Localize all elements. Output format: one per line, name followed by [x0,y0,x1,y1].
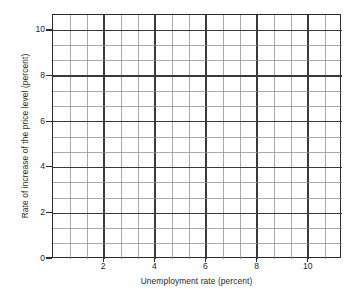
y-tick-label: 8 [5,71,45,80]
y-tick-label: 10 [5,25,45,34]
x-axis-tick-labels: 246810 [52,262,341,274]
y-axis-tick-labels: 0246810 [0,14,45,258]
x-tick-label: 2 [88,262,118,271]
y-tick-label: 0 [5,254,45,263]
y-tick-label: 4 [5,162,45,171]
grid-lines [53,15,342,259]
x-tick-label: 4 [139,262,169,271]
y-tick-label: 2 [5,208,45,217]
x-tick-label: 8 [242,262,272,271]
x-tick-label: 6 [190,262,220,271]
x-tick-label: 10 [293,262,323,271]
plot-area [52,14,341,258]
y-tick-label: 6 [5,117,45,126]
chart-figure: Rate of increase of the price level (per… [0,0,356,302]
x-axis-label: Unemployment rate (percent) [52,276,341,286]
